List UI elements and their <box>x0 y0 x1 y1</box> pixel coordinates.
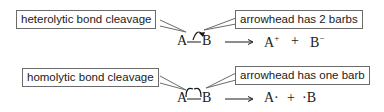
callout-pointer-right <box>204 18 236 30</box>
callout-homolytic: homolytic bond cleavage <box>22 68 159 87</box>
product-cation: A+ <box>264 33 279 51</box>
product-radical-b: ·B <box>302 90 316 106</box>
callout-two-barbs: arrowhead has 2 barbs <box>235 10 363 29</box>
callout-pointer-right <box>206 73 236 88</box>
product-radical-a: A· <box>264 90 279 106</box>
atom-a: A <box>177 90 187 106</box>
atom-b: B <box>202 33 211 49</box>
callout-heterolytic: heterolytic bond cleavage <box>16 10 156 29</box>
callout-pointer-left <box>160 76 186 90</box>
atom-a: A <box>177 33 187 49</box>
plus-sign: + <box>287 90 295 106</box>
product-anion: B− <box>310 33 324 51</box>
atom-b: B <box>202 90 211 106</box>
callout-one-barb: arrowhead has one barb <box>235 66 370 85</box>
plus-sign: + <box>291 33 299 49</box>
callout-pointer-left <box>160 20 186 32</box>
fishhook-arrow-icon <box>194 88 201 97</box>
